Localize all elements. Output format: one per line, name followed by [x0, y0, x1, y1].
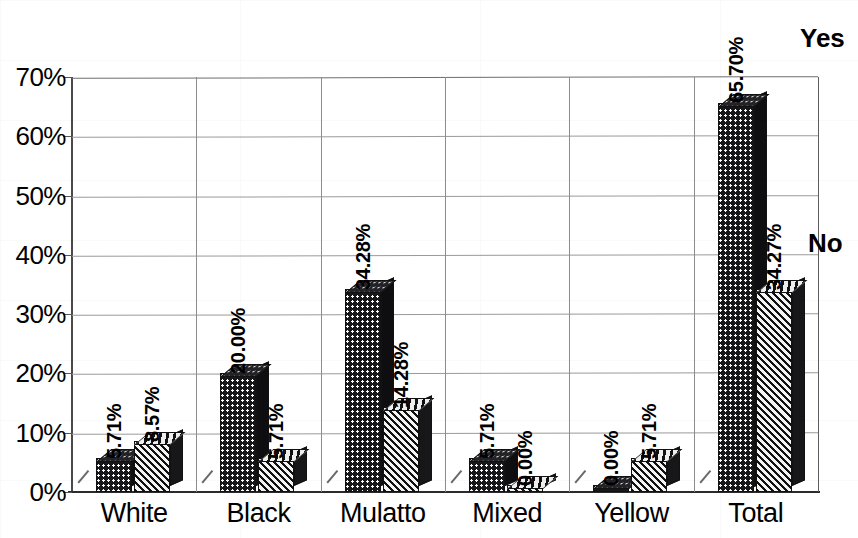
value-label-white-no: 8.57% — [141, 387, 164, 442]
legend-label-yes: Yes — [800, 23, 845, 54]
y-tick-label-30: 30% — [0, 299, 66, 330]
category-label-black: Black — [196, 498, 320, 529]
category-label-mulatto: Mulatto — [321, 498, 445, 529]
value-label-total-no: 34.27% — [763, 224, 786, 290]
y-tick-label-40: 40% — [0, 239, 66, 270]
value-label-yellow-no: 5.71% — [638, 404, 661, 459]
value-label-yellow-yes: 0.00% — [600, 431, 623, 486]
value-label-mulatto-no: 14.28% — [390, 342, 413, 408]
value-label-white-yes: 5.71% — [103, 404, 126, 459]
y-tick-label-60: 60% — [0, 121, 66, 152]
legend-label-no: No — [808, 228, 843, 259]
y-tick-label-10: 10% — [0, 417, 66, 448]
y-tick-label-20: 20% — [0, 358, 66, 389]
y-tick-label-70: 70% — [0, 62, 66, 93]
category-label-mixed: Mixed — [445, 498, 569, 529]
category-label-yellow: Yellow — [569, 498, 693, 529]
y-tick-label-0: 0% — [0, 477, 66, 508]
category-label-total: Total — [694, 498, 818, 529]
value-label-black-no: 5.71% — [265, 404, 288, 459]
value-label-mixed-no: 0.00% — [514, 431, 537, 486]
value-label-black-yes: 20.00% — [227, 308, 250, 374]
value-label-total-yes: 65.70% — [725, 37, 748, 103]
y-tick-label-50: 50% — [0, 180, 66, 211]
category-label-white: White — [72, 498, 196, 529]
value-label-mulatto-yes: 34.28% — [352, 224, 375, 290]
value-label-mixed-yes: 5.71% — [476, 404, 499, 459]
